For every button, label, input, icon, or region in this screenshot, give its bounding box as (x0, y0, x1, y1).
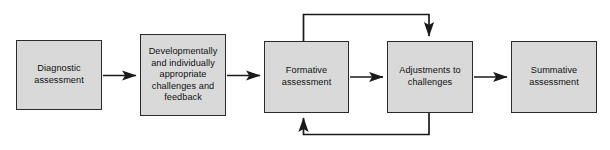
node-adjustments-to-challenges: Adjustments to challenges (387, 41, 473, 113)
arrow-loop-top-formative-to-adjustments (304, 15, 430, 42)
node-summative-assessment-label: Summative assessment (526, 65, 582, 88)
node-adjustments-to-challenges-label: Adjustments to challenges (396, 65, 463, 88)
node-diagnostic-assessment-label: Diagnostic assessment (31, 63, 87, 86)
node-developmentally-appropriate-challenges-label: Developmentally and individually appropr… (146, 46, 221, 104)
node-formative-assessment-label: Formative assessment (279, 65, 335, 88)
node-diagnostic-assessment: Diagnostic assessment (16, 40, 102, 110)
flowchart-diagram: Diagnostic assessment Developmentally an… (0, 0, 610, 150)
node-developmentally-appropriate-challenges: Developmentally and individually appropr… (140, 34, 226, 116)
node-summative-assessment: Summative assessment (511, 41, 597, 113)
arrow-loop-bottom-adjustments-to-formative (304, 113, 430, 135)
node-formative-assessment: Formative assessment (264, 41, 349, 113)
